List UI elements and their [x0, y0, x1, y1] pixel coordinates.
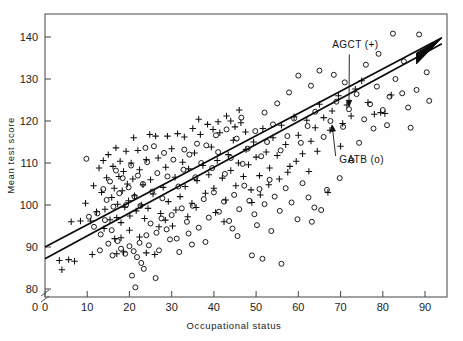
- data-point-circle-127: [224, 127, 229, 132]
- data-point-circle-45: [289, 200, 294, 205]
- data-point-plus-50: [165, 198, 171, 204]
- data-point-circle-38: [252, 212, 257, 217]
- data-point-plus-133: [143, 250, 149, 256]
- data-point-plus-77: [240, 173, 246, 179]
- plot-frame: [45, 14, 447, 297]
- data-point-circle-104: [374, 84, 379, 89]
- data-point-plus-86: [266, 165, 272, 171]
- data-point-plus-74: [233, 182, 239, 188]
- scatter-plot-svg: 010203040506070809080901001101201301400O…: [0, 0, 463, 341]
- trend-line-agct: [45, 38, 442, 247]
- data-point-circle-2: [106, 241, 111, 246]
- x-tick-label-80: 80: [377, 301, 389, 313]
- data-point-plus-93: [295, 132, 301, 138]
- data-point-circle-119: [309, 83, 314, 88]
- trend-line-gatb: [45, 44, 442, 259]
- data-point-plus-114: [223, 113, 229, 119]
- data-point-plus-23: [117, 158, 123, 164]
- data-point-circle-108: [400, 91, 405, 96]
- data-point-plus-46: [155, 155, 161, 161]
- data-point-plus-137: [173, 207, 179, 213]
- data-point-circle-35: [237, 207, 242, 212]
- data-point-circle-64: [135, 173, 140, 178]
- data-point-plus-152: [306, 168, 312, 174]
- data-point-circle-81: [222, 171, 227, 176]
- data-point-circle-135: [91, 224, 96, 229]
- data-point-circle-1: [97, 248, 102, 253]
- data-point-circle-96: [321, 134, 326, 139]
- data-point-circle-118: [296, 73, 301, 78]
- data-point-circle-4: [115, 239, 120, 244]
- y-tick-label-110: 110: [20, 157, 38, 169]
- data-point-circle-15: [153, 276, 158, 281]
- data-point-plus-49: [163, 164, 169, 170]
- data-point-plus-151: [293, 158, 299, 164]
- data-point-circle-124: [275, 101, 280, 106]
- data-point-circle-148: [254, 223, 259, 228]
- data-point-circle-94: [305, 124, 310, 129]
- data-point-circle-26: [190, 203, 195, 208]
- data-point-circle-42: [272, 194, 277, 199]
- data-point-plus-147: [257, 192, 263, 198]
- y-tick-label-90: 90: [26, 241, 38, 253]
- data-point-plus-21: [114, 201, 120, 207]
- data-point-plus-135: [59, 266, 65, 272]
- data-point-circle-24: [184, 219, 189, 224]
- data-point-plus-116: [236, 107, 242, 113]
- data-point-circle-33: [227, 218, 232, 223]
- data-point-circle-56: [111, 204, 116, 209]
- data-point-plus-2: [71, 258, 77, 264]
- y-tick-label-120: 120: [20, 115, 38, 127]
- data-point-circle-21: [169, 213, 174, 218]
- data-point-circle-72: [171, 157, 176, 162]
- data-point-plus-115: [232, 124, 238, 130]
- data-point-plus-118: [181, 134, 187, 140]
- data-point-circle-57: [113, 168, 118, 173]
- data-point-circle-147: [235, 234, 240, 239]
- data-point-circle-20: [164, 227, 169, 232]
- x-tick-label-70: 70: [334, 301, 346, 313]
- data-point-plus-5: [82, 200, 88, 206]
- data-point-circle-55: [108, 179, 113, 184]
- data-point-plus-144: [212, 209, 218, 215]
- data-point-plus-149: [276, 176, 282, 182]
- data-point-plus-125: [190, 125, 196, 131]
- data-point-plus-55: [179, 159, 185, 165]
- data-point-circle-115: [376, 51, 381, 56]
- data-point-circle-36: [242, 183, 247, 188]
- data-point-circle-120: [317, 68, 322, 73]
- data-point-circle-157: [385, 123, 390, 128]
- data-point-plus-3: [68, 219, 74, 225]
- data-point-plus-0: [56, 257, 62, 263]
- data-point-circle-75: [187, 152, 192, 157]
- data-point-plus-53: [174, 130, 180, 136]
- data-point-circle-28: [201, 197, 206, 202]
- data-point-circle-87: [259, 154, 264, 159]
- data-point-plus-43: [147, 177, 153, 183]
- data-point-circle-16: [144, 233, 149, 238]
- data-point-circle-134: [98, 232, 103, 237]
- data-point-circle-0: [84, 156, 89, 161]
- data-point-circle-51: [260, 256, 265, 261]
- data-point-plus-128: [118, 235, 124, 241]
- data-point-plus-132: [136, 234, 142, 240]
- data-point-plus-9: [96, 165, 102, 171]
- data-point-plus-28: [123, 148, 129, 154]
- data-point-circle-61: [126, 185, 131, 190]
- data-point-circle-17: [148, 221, 153, 226]
- data-point-circle-114: [363, 62, 368, 67]
- data-point-circle-25: [189, 242, 194, 247]
- data-point-plus-119: [164, 133, 170, 139]
- data-point-circle-129: [195, 141, 200, 146]
- data-point-plus-101: [329, 108, 335, 114]
- y-tick-label-80: 80: [26, 283, 38, 295]
- figure-container: 010203040506070809080901001101201301400O…: [0, 0, 463, 341]
- data-point-circle-93: [298, 140, 303, 145]
- data-point-plus-66: [211, 185, 217, 191]
- data-point-plus-91: [287, 163, 293, 169]
- data-point-plus-40: [141, 215, 147, 221]
- data-point-circle-144: [186, 231, 191, 236]
- data-point-circle-84: [240, 161, 245, 166]
- data-point-circle-97: [328, 119, 333, 124]
- data-point-plus-117: [242, 129, 248, 135]
